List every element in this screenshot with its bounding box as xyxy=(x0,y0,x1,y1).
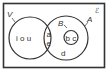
region-v-and-a-a: a xyxy=(47,30,52,39)
set-v-label: V xyxy=(7,10,13,19)
universal-set-symbol: ℰ xyxy=(95,7,99,14)
set-b-label: B xyxy=(58,19,64,28)
region-v-and-a-e: e xyxy=(47,39,52,48)
region-b: b c xyxy=(66,34,77,43)
venn-diagram: ℰ V A B i o u a e b c d xyxy=(0,0,108,72)
region-v-only: i o u xyxy=(16,34,31,43)
region-a-only: d xyxy=(61,49,65,58)
set-a-label: A xyxy=(86,15,92,24)
